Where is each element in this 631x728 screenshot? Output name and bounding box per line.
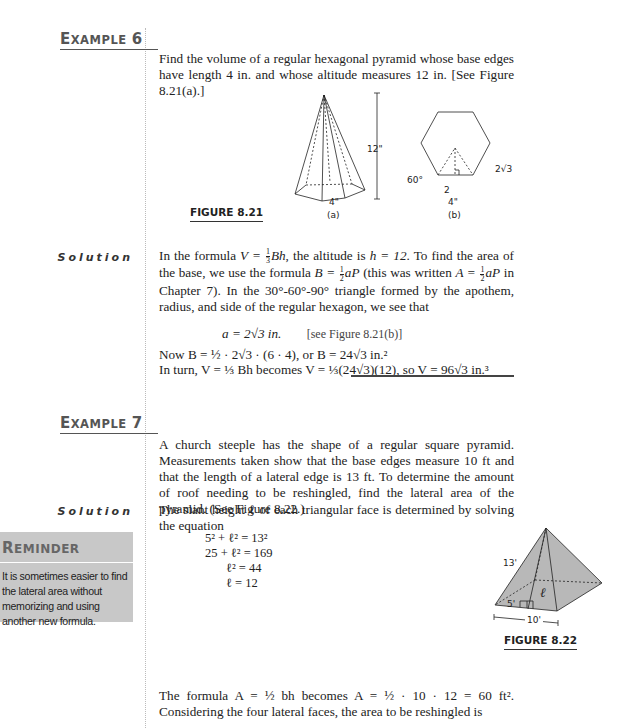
figure-8-21-label: FIGURE 8.21: [190, 204, 263, 222]
reminder-divider: [0, 562, 133, 563]
caption-a: (a): [327, 207, 340, 223]
example-6-solution: In the formula V = 13Bh, the altitude is…: [159, 248, 514, 315]
lateral-area-paragraph: The formula A = ½ bh becomes A = ½ · 10 …: [159, 688, 514, 720]
lateral-edge-label: 13': [503, 555, 517, 571]
figure-8-22-label: FIGURE 8.22: [504, 632, 577, 650]
square-pyramid-figure: [490, 525, 625, 630]
height-label: 12": [367, 141, 383, 157]
half-base-label: 5': [507, 596, 515, 612]
example-7-heading: EXAMPLE 7: [60, 415, 158, 434]
reminder-text: It is sometimes easier to find the later…: [2, 569, 130, 629]
hexagon-figure: [415, 110, 495, 190]
apothem-equation: a = 2√3 in. [see Figure 8.21(b)]: [222, 326, 402, 342]
margin-rule: [145, 28, 146, 728]
solution-label-6: Solution: [23, 250, 133, 266]
angle-label: 60°: [407, 172, 423, 188]
example-6-heading: EXAMPLE 6: [60, 31, 158, 50]
caption-b: (b): [448, 207, 461, 223]
reminder-title: REMINDER: [2, 540, 80, 557]
slant-height-equations: 5² + ℓ² = 13² 25 + ℓ² = 169 ℓ² = 44 ℓ = …: [205, 531, 325, 591]
apothem-label: 2√3: [495, 161, 512, 177]
solution-label-7: Solution: [23, 504, 133, 520]
end-of-example-rule: [351, 375, 514, 377]
base-area-line: Now B = ½ · 2√3 · (6 · 4), or B = 24√3 i…: [159, 347, 514, 363]
slant-label: ℓ: [540, 585, 546, 601]
example-7-solution-intro: The slant height ℓ of each triangular fa…: [159, 502, 514, 534]
base-label: 10': [525, 612, 543, 628]
reminder-box: REMINDER It is sometimes easier to find …: [0, 532, 133, 622]
